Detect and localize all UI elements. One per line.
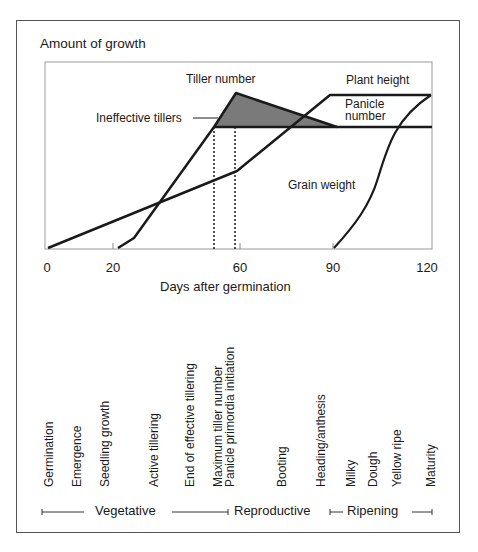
- stage-dough: Dough: [367, 452, 380, 487]
- stage-panicle-primordia-initiation: Panicle primordia initiation: [224, 347, 237, 487]
- tiller-number-label: Tiller number: [186, 72, 256, 86]
- x-axis-title: Days after germination: [160, 279, 291, 294]
- stage-emergence: Emergence: [71, 426, 84, 487]
- stage-end-of-effective-tillering: End of effective tillering: [184, 363, 197, 487]
- x-tick-90: 90: [326, 260, 340, 275]
- stage-germination: Germination: [43, 422, 56, 487]
- phase-ripening: Ripening: [347, 503, 398, 518]
- stage-booting: Booting: [276, 446, 289, 487]
- stage-yellow-ripe: Yellow ripe: [391, 429, 404, 487]
- stage-milky: Milky: [345, 460, 358, 487]
- panicle-number-label-line2: number: [345, 110, 386, 122]
- tiller-dotted-guides: [214, 127, 235, 249]
- plot-area: [45, 62, 432, 249]
- grain-weight-label: Grain weight: [288, 178, 355, 192]
- phase-reproductive: Reproductive: [234, 503, 311, 518]
- plant-height-label: Plant height: [346, 73, 409, 87]
- stage-maturity: Maturity: [425, 444, 438, 487]
- stage-active-tillering: Active tillering: [148, 413, 161, 487]
- stage-seedling-growth: Seedling growth: [99, 401, 112, 487]
- stage-heading-anthesis: Heading/anthesis: [315, 394, 328, 487]
- x-tick-20: 20: [106, 260, 120, 275]
- x-tick-120: 120: [416, 260, 438, 275]
- panicle-number-label: Panicle number: [345, 98, 386, 122]
- x-tick-60: 60: [233, 260, 247, 275]
- x-axis-ticks: [113, 243, 333, 249]
- x-tick-0: 0: [43, 260, 50, 275]
- phase-vegetative: Vegetative: [95, 503, 156, 518]
- ineffective-tillers-label: Ineffective tillers: [96, 111, 182, 125]
